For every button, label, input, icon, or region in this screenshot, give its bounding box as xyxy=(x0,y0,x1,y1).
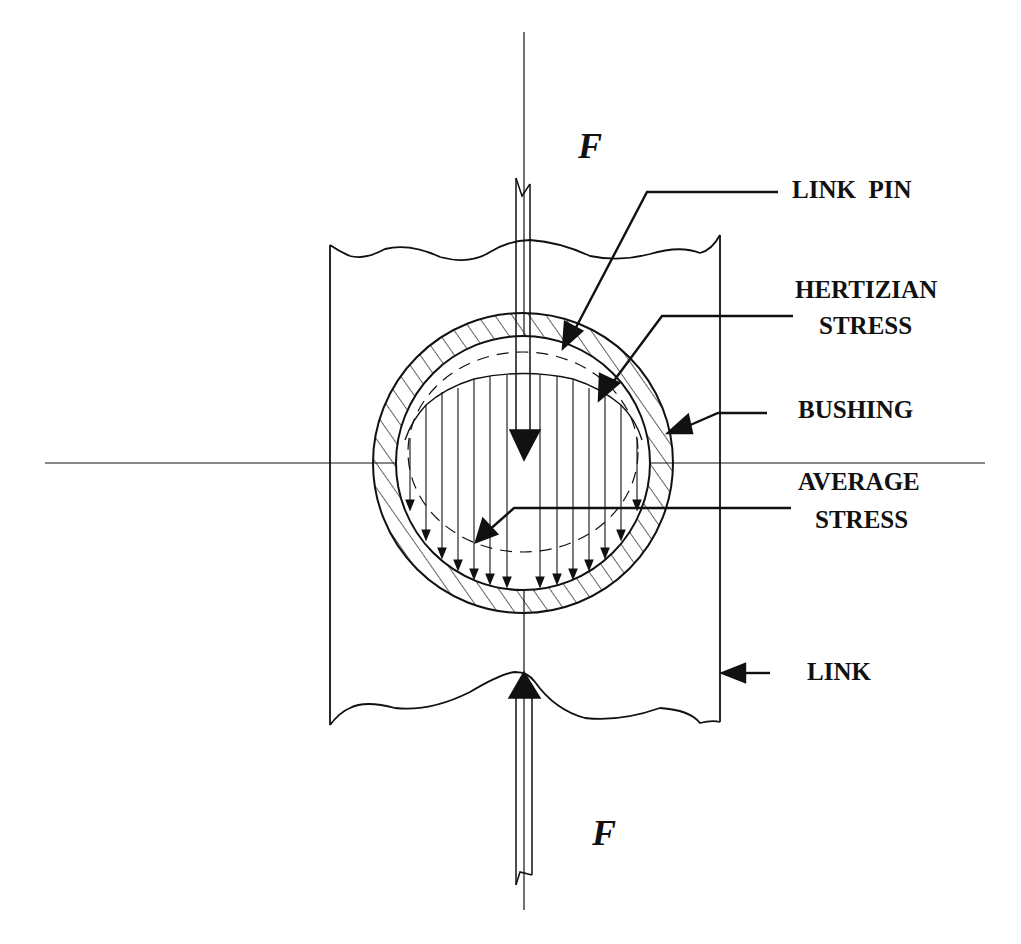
label-average-line2: STRESS xyxy=(815,506,908,533)
bottom-force-label: F xyxy=(591,813,616,853)
bushing xyxy=(373,313,673,613)
top-force-label: F xyxy=(577,126,602,166)
leader-link xyxy=(722,664,770,682)
diagram-canvas: F F LINK PIN HERTIZIAN STRESS BUSHING AV… xyxy=(0,0,1021,944)
label-link-pin: LINK PIN xyxy=(792,176,911,203)
leader-link-pin xyxy=(563,192,778,348)
label-hertizian-line2: STRESS xyxy=(819,312,912,339)
label-link: LINK xyxy=(807,658,871,685)
label-bushing: BUSHING xyxy=(798,396,913,423)
label-hertizian-line1: HERTIZIAN xyxy=(795,276,937,303)
leader-bushing xyxy=(668,413,767,433)
label-average-line1: AVERAGE xyxy=(798,468,920,495)
